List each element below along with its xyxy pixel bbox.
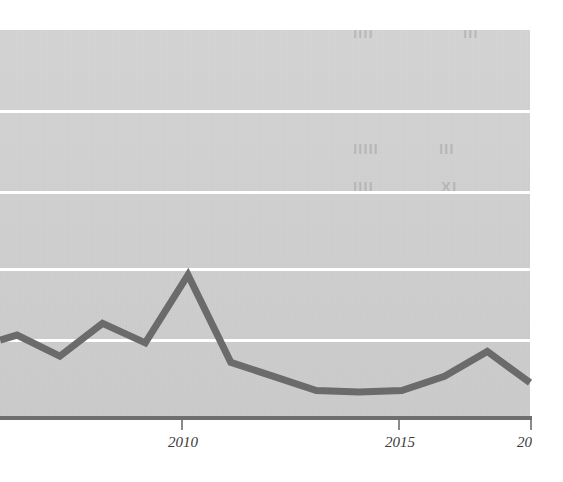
x-axis-tick-2010 bbox=[181, 420, 183, 430]
series-layer bbox=[0, 0, 563, 482]
x-axis-line bbox=[0, 416, 532, 420]
x-axis-tick-2015 bbox=[398, 420, 400, 430]
x-axis-label-2010: 2010 bbox=[168, 434, 198, 451]
series-line-1 bbox=[0, 275, 530, 392]
page-right-margin bbox=[532, 0, 563, 482]
x-axis-label-2015: 2015 bbox=[385, 434, 415, 451]
line-chart: IIII III IIIII III IIII IX 2010 2015 201… bbox=[0, 0, 563, 482]
